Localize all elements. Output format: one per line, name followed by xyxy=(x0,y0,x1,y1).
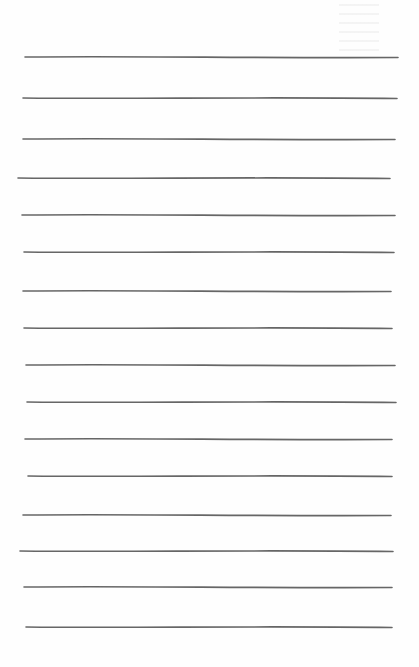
ruled-line xyxy=(24,328,392,329)
ruled-line xyxy=(23,515,391,516)
ruled-line xyxy=(25,439,392,440)
ruled-line xyxy=(28,476,392,477)
ruled-line xyxy=(25,57,398,58)
ruled-line xyxy=(26,365,395,366)
ruled-line xyxy=(23,98,397,99)
ruled-lines xyxy=(0,0,419,667)
ruled-line xyxy=(22,215,395,216)
ruled-line xyxy=(23,139,395,140)
ruled-line xyxy=(26,627,392,628)
ruled-line xyxy=(20,551,393,552)
ruled-line xyxy=(18,178,390,179)
ruled-line xyxy=(24,252,394,253)
ruled-line xyxy=(23,291,391,292)
ruled-page xyxy=(0,0,419,667)
ruled-line xyxy=(27,402,396,403)
ruled-line xyxy=(24,587,392,588)
